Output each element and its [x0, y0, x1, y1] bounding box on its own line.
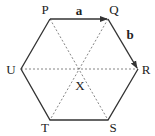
vertex-label-r: R [142, 62, 151, 77]
vertex-label-q: Q [109, 2, 119, 17]
vertex-label-p: P [41, 2, 48, 17]
vector-label-a: a [76, 3, 83, 18]
hexagon-svg: P Q R S T U X a b [0, 0, 155, 136]
vertex-label-u: U [6, 62, 16, 77]
vector-label-b: b [126, 27, 133, 42]
center-label-x: X [75, 78, 85, 93]
vertex-label-s: S [109, 120, 116, 135]
vertex-label-t: T [41, 120, 49, 135]
hexagon-diagram: P Q R S T U X a b [0, 0, 155, 136]
